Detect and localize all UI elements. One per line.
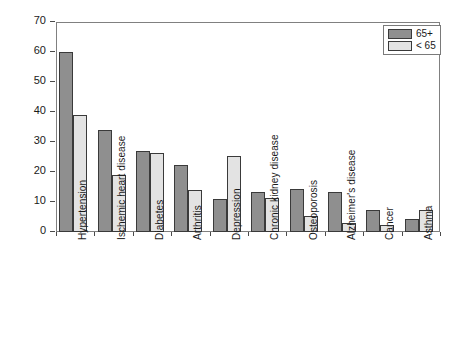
- chart-legend: 65+< 65: [383, 25, 441, 55]
- bar-65plus: [174, 165, 188, 233]
- x-label-arthritis: Arthritis: [192, 205, 203, 240]
- y-tick-mark: [50, 111, 55, 112]
- x-label-osteoporosis: Osteoporosis: [308, 180, 319, 240]
- y-tick-label: 60: [0, 44, 46, 56]
- x-label-asthma: Asthma: [423, 205, 434, 240]
- x-label-alzheimer-s-disease: Alzheimer's disease: [346, 149, 357, 240]
- y-tick-label: 70: [0, 14, 46, 26]
- y-tick-mark: [50, 21, 55, 22]
- y-tick-mark: [50, 231, 55, 232]
- legend-item-under65: < 65: [388, 41, 436, 51]
- bar-65plus: [328, 192, 342, 233]
- legend-label: 65+: [416, 29, 433, 39]
- bar-65plus: [59, 52, 73, 232]
- bar-chart: Percent 010203040506070 HypertensionIsch…: [0, 0, 461, 354]
- legend-label: < 65: [416, 41, 436, 51]
- x-tick-mark: [56, 232, 57, 236]
- legend-item-65plus: 65+: [388, 29, 436, 39]
- y-tick-label: 10: [0, 194, 46, 206]
- y-tick-mark: [50, 171, 55, 172]
- x-tick-mark: [94, 232, 95, 236]
- x-label-hypertension: Hypertension: [77, 180, 88, 240]
- y-tick-mark: [50, 51, 55, 52]
- x-tick-mark: [325, 232, 326, 236]
- y-tick-label: 0: [0, 224, 46, 236]
- x-tick-mark: [248, 232, 249, 236]
- bar-65plus: [136, 151, 150, 232]
- x-tick-mark: [440, 232, 441, 236]
- y-tick-label: 50: [0, 74, 46, 86]
- legend-swatch: [388, 41, 412, 51]
- y-tick-mark: [50, 81, 55, 82]
- x-tick-mark: [402, 232, 403, 236]
- bar-65plus: [405, 219, 419, 233]
- x-label-ischemic-heart-disease: Ischemic heart disease: [116, 136, 127, 240]
- bar-65plus: [213, 199, 227, 232]
- y-tick-label: 30: [0, 134, 46, 146]
- x-label-chronic-kidney-disease: Chronic kidney disease: [269, 134, 280, 240]
- x-tick-mark: [171, 232, 172, 236]
- legend-swatch: [388, 29, 412, 39]
- y-tick-label: 40: [0, 104, 46, 116]
- y-tick-mark: [50, 141, 55, 142]
- bar-65plus: [366, 210, 380, 233]
- x-label-diabetes: Diabetes: [154, 200, 165, 240]
- y-tick-label: 20: [0, 164, 46, 176]
- bar-65plus: [290, 189, 304, 233]
- x-label-cancer: Cancer: [384, 207, 395, 240]
- y-tick-mark: [50, 201, 55, 202]
- x-tick-mark: [210, 232, 211, 236]
- x-tick-mark: [133, 232, 134, 236]
- bar-65plus: [251, 192, 265, 233]
- x-label-depression: Depression: [231, 188, 242, 240]
- x-tick-mark: [363, 232, 364, 236]
- x-tick-mark: [286, 232, 287, 236]
- bar-65plus: [98, 130, 112, 232]
